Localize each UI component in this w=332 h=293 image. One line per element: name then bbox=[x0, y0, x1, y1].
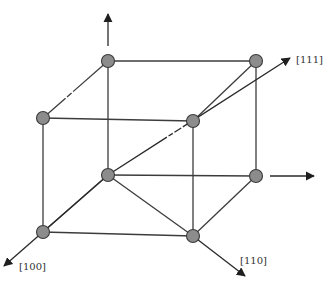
crystal-cube-diagram: [111] [100] [110] bbox=[0, 0, 332, 293]
node-bottom-back-right bbox=[250, 170, 263, 183]
node-top-back-right bbox=[250, 55, 263, 68]
arrow-100 bbox=[4, 175, 108, 266]
edge-bottom-right bbox=[193, 176, 256, 236]
edge-bottom-back bbox=[108, 175, 256, 176]
edge-top-front bbox=[43, 118, 193, 121]
arrow-110 bbox=[193, 236, 245, 276]
edge-diagonal-110 bbox=[108, 175, 193, 236]
node-top-front-right bbox=[187, 115, 200, 128]
label-110: [110] bbox=[240, 255, 267, 266]
label-111: [111] bbox=[296, 54, 323, 65]
node-bottom-front-left bbox=[37, 226, 50, 239]
arrow-111 bbox=[108, 58, 290, 175]
edge-top-right bbox=[193, 61, 256, 121]
node-bottom-back-left bbox=[102, 169, 115, 182]
direction-arrows bbox=[4, 14, 314, 276]
edge-bottom-front bbox=[43, 232, 193, 236]
label-100: [100] bbox=[19, 261, 46, 272]
node-top-front-left bbox=[37, 112, 50, 125]
node-top-back-left bbox=[102, 55, 115, 68]
edge-top-left bbox=[43, 61, 108, 118]
node-bottom-front-right bbox=[187, 230, 200, 243]
